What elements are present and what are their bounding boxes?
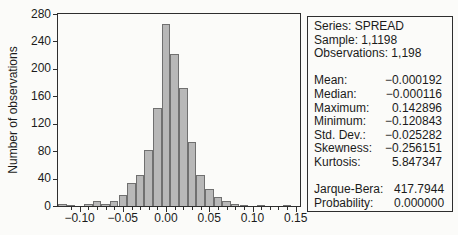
x-axis-tick (106, 207, 107, 210)
y-axis-tick (53, 96, 57, 97)
histogram-bar (196, 175, 205, 206)
histogram-bar (127, 183, 136, 206)
y-tick-label: 0 (0, 200, 51, 213)
y-tick-label: 160 (0, 90, 51, 103)
x-axis-tick (261, 207, 262, 210)
stats-spacer (314, 61, 442, 75)
stats-row-value: 417.7944 (394, 183, 444, 197)
x-axis-tick (227, 207, 228, 210)
y-tick-label: 80 (0, 145, 51, 158)
x-axis-tick (201, 207, 202, 210)
x-axis-tick (175, 207, 176, 210)
stats-header-line: Observations: 1,198 (314, 47, 442, 61)
stats-row-label: Std. Dev.: (314, 129, 366, 143)
x-axis-tick (235, 207, 236, 210)
x-tick-label: 0.05 (198, 211, 221, 225)
stats-row-value: 0.000000 (394, 197, 444, 211)
y-axis-tick (53, 124, 57, 125)
stats-spacer (314, 170, 442, 184)
stats-row-label: Minimum: (314, 115, 366, 129)
histogram-bar (84, 204, 93, 206)
histogram-bar (214, 197, 223, 206)
stats-row: Std. Dev.:−0.025282 (314, 129, 442, 143)
x-axis-tick (278, 207, 279, 210)
histogram-bar (153, 108, 162, 206)
stats-row-label: Kurtosis: (314, 156, 361, 170)
y-axis-tick (53, 179, 57, 180)
y-tick-label: 280 (0, 8, 51, 21)
y-tick-label: 200 (0, 62, 51, 75)
stats-row: Median:−0.000116 (314, 88, 442, 102)
x-axis-tick (157, 207, 158, 210)
histogram-bar (188, 142, 197, 206)
histogram-figure: Number of observations 04080120160200240… (0, 0, 458, 235)
y-axis-tick (53, 151, 57, 152)
histogram-bar (257, 205, 266, 206)
histogram-bar (205, 189, 214, 206)
stats-row-label: Mean: (314, 74, 347, 88)
stats-row-value: −0.000192 (385, 74, 442, 88)
histogram-bar (101, 204, 110, 206)
stats-row-label: Jarque-Bera: (314, 183, 394, 197)
stats-row-label: Probability: (314, 197, 394, 211)
y-axis-tick (53, 206, 57, 207)
histogram-bar (240, 205, 249, 206)
stats-row-label: Maximum: (314, 102, 369, 116)
y-axis-tick (53, 69, 57, 70)
histogram-bar (58, 204, 67, 206)
x-tick-label: 0.10 (241, 211, 264, 225)
x-axis-tick (218, 207, 219, 210)
x-axis-tick (114, 207, 115, 210)
stats-row: Probability:0.000000 (314, 197, 442, 211)
stats-row-value: −0.120843 (385, 115, 442, 129)
histogram-bar (144, 150, 153, 206)
histogram-bar (110, 201, 119, 206)
histogram-bar (119, 195, 128, 206)
x-axis-tick (88, 207, 89, 210)
stats-row-label: Median: (314, 88, 357, 102)
histogram-bar (93, 201, 102, 206)
x-tick-label: −0.10 (64, 211, 94, 225)
histogram-bar (67, 205, 76, 206)
x-axis-tick (270, 207, 271, 210)
x-axis-tick (192, 207, 193, 210)
histogram-bar (179, 88, 188, 206)
x-axis-tick (244, 207, 245, 210)
histogram-bar (222, 201, 231, 206)
y-tick-label: 240 (0, 35, 51, 48)
stats-row-value: 0.142896 (392, 102, 442, 116)
stats-header-line: Series: SPREAD (314, 20, 442, 34)
x-axis-tick (183, 207, 184, 210)
x-tick-label: −0.05 (108, 211, 138, 225)
stats-row-value: −0.025282 (385, 129, 442, 143)
stats-row: Jarque-Bera:417.7944 (314, 183, 442, 197)
stats-box: Series: SPREADSample: 1,1198Observations… (307, 16, 453, 212)
stats-row: Skewness:−0.256151 (314, 142, 442, 156)
stats-test-rows: Jarque-Bera:417.7944Probability:0.000000 (314, 183, 442, 210)
stats-row: Minimum:−0.120843 (314, 115, 442, 129)
stats-header: Series: SPREADSample: 1,1198Observations… (314, 20, 442, 61)
x-axis-tick (149, 207, 150, 210)
histogram-bar (170, 54, 179, 206)
histogram-bar (283, 205, 292, 206)
y-axis-tick (53, 41, 57, 42)
stats-row-value: −0.000116 (386, 88, 442, 102)
histogram-bar (162, 24, 171, 206)
stats-row: Maximum:0.142896 (314, 102, 442, 116)
y-axis-tick (53, 14, 57, 15)
x-tick-label: 0.00 (154, 211, 177, 225)
stats-main-rows: Mean:−0.000192Median:−0.000116Maximum:0.… (314, 74, 442, 169)
histogram-bar (136, 175, 145, 206)
stats-row-label: Skewness: (314, 142, 372, 156)
stats-row: Mean:−0.000192 (314, 74, 442, 88)
stats-header-line: Sample: 1,1198 (314, 34, 442, 48)
x-tick-label: 0.15 (284, 211, 307, 225)
x-axis-tick (132, 207, 133, 210)
stats-row: Kurtosis:5.847347 (314, 156, 442, 170)
y-tick-label: 40 (0, 172, 51, 185)
x-axis-tick (71, 207, 72, 210)
x-axis-tick (97, 207, 98, 210)
x-axis-tick (140, 207, 141, 210)
y-tick-label: 120 (0, 117, 51, 130)
histogram-bar (231, 204, 240, 206)
